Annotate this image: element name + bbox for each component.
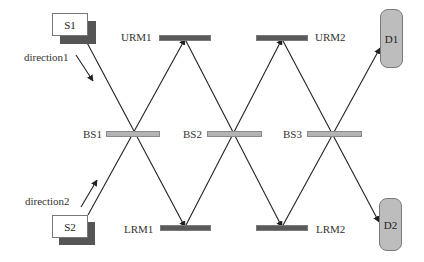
beam-splitter-bs1 [106,131,160,137]
urm1-label: URM1 [121,32,152,43]
interferometer-diagram: S1 S2 direction1 direction2 URM1 URM2 BS… [0,0,424,262]
bs1-label: BS1 [83,129,102,140]
source-s2-box: S2 [52,215,88,238]
bs3-label: BS3 [283,129,302,140]
detector-d1: D1 [380,9,403,68]
lrm1-label: LRM1 [124,224,153,235]
detector-d2: D2 [379,198,402,251]
source-s2-label: S2 [64,221,76,233]
beam-splitter-bs3 [307,131,362,137]
source-s2: S2 [52,215,97,247]
lrm2-label: LRM2 [316,224,345,235]
upper-mirror-urm1 [159,35,211,41]
source-s1-label: S1 [64,19,76,31]
beam-s2-urm1 [88,39,185,215]
direction2-label: direction2 [25,196,70,207]
beam-splitter-bs2 [207,131,262,137]
upper-mirror-urm2 [256,35,308,41]
direction1-label: direction1 [24,52,69,63]
urm2-label: URM2 [315,32,346,43]
source-s1-box: S1 [52,13,88,36]
lower-mirror-lrm2 [256,225,308,231]
detector-d2-label: D2 [384,219,397,231]
direction1-arrow-icon [76,55,93,81]
source-s1: S1 [52,13,97,45]
detector-d1-label: D1 [385,33,398,45]
lower-mirror-lrm1 [160,225,211,231]
bs2-label: BS2 [183,129,202,140]
